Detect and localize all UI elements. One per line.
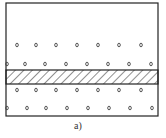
particle-icon (151, 106, 154, 110)
particle-icon (97, 43, 100, 47)
particle-icon (6, 106, 9, 110)
particle-icon (140, 43, 143, 47)
particle-icon (35, 88, 38, 92)
particle-icon (87, 106, 90, 110)
particle-icon (107, 62, 110, 66)
particle-icon (66, 106, 69, 110)
particle-icon (35, 43, 38, 47)
particle-icon (140, 88, 143, 92)
diagram-figure (0, 0, 166, 138)
particle-icon (24, 62, 27, 66)
particle-icon (16, 88, 19, 92)
particle-icon (26, 106, 29, 110)
particle-icon (45, 106, 48, 110)
particle-icon (118, 88, 121, 92)
particle-icon (44, 62, 47, 66)
particle-icon (65, 62, 68, 66)
particle-icon (86, 62, 89, 66)
particle-icon (118, 43, 121, 47)
particle-icon (108, 106, 111, 110)
particle-icon (55, 43, 58, 47)
particle-icon (76, 43, 79, 47)
particle-icon (128, 62, 131, 66)
particle-icon (150, 62, 153, 66)
particle-icon (16, 43, 19, 47)
hatched-layer (6, 70, 158, 84)
particle-icon (76, 88, 79, 92)
particle-icon (55, 88, 58, 92)
outer-frame (6, 3, 158, 116)
figure-caption: a) (74, 120, 82, 131)
particle-icon (97, 88, 100, 92)
particle-icon (129, 106, 132, 110)
particle-icon (6, 62, 9, 66)
